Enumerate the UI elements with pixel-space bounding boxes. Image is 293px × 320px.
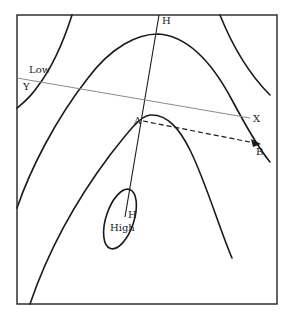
- diagram-frame: [17, 15, 277, 304]
- label-h-top: H: [162, 15, 171, 26]
- isobar-top-right: [220, 15, 270, 95]
- label-low: Low: [29, 64, 51, 75]
- label-high: High: [110, 222, 135, 233]
- label-y: Y: [22, 81, 30, 92]
- trajectory-arrow: [143, 121, 255, 143]
- isobar-diagram: Low Y X H A B H High: [0, 0, 293, 320]
- label-point-b: B: [256, 146, 263, 157]
- label-h-center: H: [128, 209, 137, 220]
- cross-section-line: [17, 78, 250, 118]
- label-x: X: [253, 113, 261, 124]
- label-point-a: A: [133, 115, 142, 126]
- ridge-axis-line: [125, 15, 159, 217]
- isobar-top-left: [17, 15, 72, 108]
